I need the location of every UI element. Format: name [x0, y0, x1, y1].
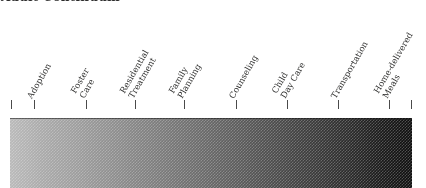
- continuum-bar-top-edge: [10, 118, 412, 119]
- axis-tick-label-foster-care: Foster Care: [70, 67, 100, 100]
- axis-tick-label-line1: Transportation: [329, 39, 370, 100]
- axis-tick-mark: [389, 100, 390, 109]
- axis-tick-label-adoption: Adoption: [26, 62, 54, 100]
- axis-tick-mark: [34, 100, 35, 109]
- axis-tick-label-family-planning: Family Planning: [168, 58, 204, 100]
- axis-tick-mark: [411, 100, 412, 109]
- axis-tick-label-counseling: Counseling: [228, 53, 260, 100]
- axis-tick-mark: [11, 100, 12, 109]
- axis-tick-mark: [86, 100, 87, 109]
- axis-tick-label-residential-treatment: Residential Treatment: [119, 49, 160, 100]
- axis-tick-mark: [338, 100, 339, 109]
- continuum-bar-dither-pattern: [10, 118, 412, 188]
- chart-figure: Adult Continuum Adoption Foster Care Res…: [0, 0, 426, 188]
- axis-tick-mark: [135, 100, 136, 109]
- continuum-bar: [10, 118, 412, 188]
- axis-tick-label-line1: Adoption: [25, 61, 53, 100]
- axis-tick-mark: [287, 100, 288, 109]
- axis-tick-label-transportation: Transportation: [330, 39, 370, 100]
- axis-tick-label-home-delivered-meals: Home-delivered Meals: [373, 31, 424, 100]
- axis-tick-mark: [184, 100, 185, 109]
- axis-tick-marks: [0, 100, 426, 111]
- axis-tick-label-line1: Counseling: [227, 53, 260, 100]
- axis-tick-mark: [236, 100, 237, 109]
- axis-tick-label-child-day-care: Child Day Care: [271, 56, 307, 100]
- axis-tick-labels: Adoption Foster Care Residential Treatme…: [0, 0, 426, 100]
